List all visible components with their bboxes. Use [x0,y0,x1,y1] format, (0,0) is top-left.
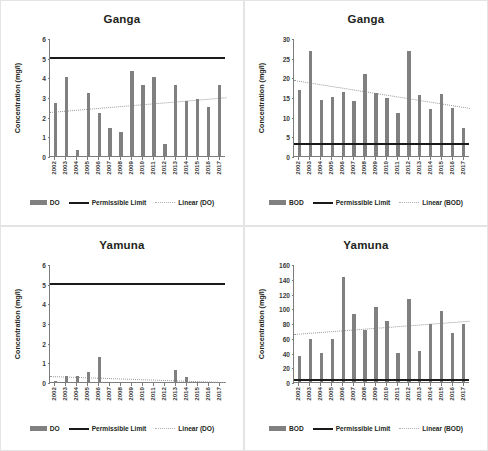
bar-cell [425,265,436,382]
bar-2002 [54,381,57,382]
legend-label: BOD [289,199,304,206]
legend-item-bar: DO [30,199,60,206]
x-tick-label: 2007 [106,387,112,401]
bar-cell [338,265,349,382]
x-tick-label: 2009 [128,387,134,401]
bar-2007 [108,128,111,156]
x-tick-mark [309,383,310,386]
x-tick-label: 2005 [328,387,334,401]
legend-ganga_bod: BODPermissible LimitLinear (BOD) [245,199,487,206]
bar-cell [392,39,403,156]
bar-2010 [385,321,388,382]
legend-item-dot: Linear (BOD) [399,425,463,432]
bar-2002 [298,90,301,156]
x-axis-tick-labels-yamuna_bod: 2002200320042005200620072008200920102011… [293,387,469,401]
x-tick-label: 2011 [394,387,400,401]
x-tick-mark [364,157,365,160]
bar-2004 [320,353,323,383]
x-tick-label: 2015 [438,161,444,175]
bar-2003 [65,77,68,156]
x-tick-label: 2010 [383,161,389,175]
x-tick-mark [375,383,376,386]
x-tick-mark [131,383,132,386]
x-tick-mark [353,157,354,160]
x-tick-marks [49,157,225,160]
bar-cell [436,265,447,382]
legend-swatch-dot [399,202,419,203]
bar-series-yamuna_bod [294,265,469,382]
x-tick-mark [186,383,187,386]
x-tick-label: 2003 [62,387,68,401]
x-tick-mark [331,157,332,160]
bar-cell [458,39,469,156]
bar-2004 [320,100,323,156]
legend-item-dot: Linear (BOD) [399,199,463,206]
bar-cell [349,265,360,382]
x-tick-label: 2006 [339,387,345,401]
legend-label: Linear (DO) [178,425,214,432]
x-tick-label: 2008 [117,387,123,401]
bar-cell [294,39,305,156]
x-tick-mark [463,383,464,386]
bar-cell [338,39,349,156]
x-tick-label: 2011 [394,161,400,175]
x-tick-marks [293,383,469,386]
x-tick-label: 2008 [361,161,367,175]
x-tick-label: 2006 [95,387,101,401]
bar-cell [425,39,436,156]
x-tick-label: 2008 [361,387,367,401]
x-tick-mark [142,383,143,386]
legend-swatch-line [313,428,333,430]
x-tick-mark [76,383,77,386]
legend-swatch-dot [155,202,175,203]
x-tick-label: 2005 [84,387,90,401]
legend-label: Permissible Limit [336,199,391,206]
bar-cell [436,39,447,156]
bar-2017 [462,128,465,156]
x-tick-label: 2013 [172,387,178,401]
x-tick-mark [120,383,121,386]
x-tick-marks [293,157,469,160]
x-tick-mark [397,383,398,386]
x-tick-mark [397,157,398,160]
x-tick-mark [320,157,321,160]
bar-2017 [218,85,221,156]
x-tick-label: 2002 [295,161,301,175]
bar-cell [458,265,469,382]
bar-cell [382,39,393,156]
x-tick-mark [87,383,88,386]
x-tick-label: 2003 [62,161,68,175]
bar-2009 [374,93,377,156]
bar-2010 [385,98,388,156]
bar-2015 [440,94,443,156]
x-tick-label: 2014 [183,161,189,175]
x-tick-label: 2011 [150,161,156,175]
x-tick-mark [131,157,132,160]
bar-2015 [440,311,443,382]
bar-cell [392,265,403,382]
x-tick-label: 2012 [405,387,411,401]
bar-cell [371,39,382,156]
panel-title-ganga_bod: Ganga [245,13,487,25]
x-tick-mark [408,157,409,160]
x-tick-mark [142,157,143,160]
x-tick-label: 2010 [139,387,145,401]
bar-cell [349,39,360,156]
legend-swatch-bar [30,200,47,205]
x-tick-marks [49,383,225,386]
legend-yamuna_bod: BODPermissible LimitLinear (BOD) [245,425,487,432]
bar-2003 [65,376,68,382]
bar-2010 [141,85,144,156]
chart-panel-ganga_bod: GangaConcentration (mg/l)051015202530200… [244,0,488,226]
bar-cell [327,265,338,382]
x-tick-label: 2012 [161,161,167,175]
x-tick-label: 2013 [172,161,178,175]
legend-item-line: Permissible Limit [313,199,391,206]
bar-2011 [152,77,155,156]
x-tick-mark [342,383,343,386]
four-panel-chart-figure: GangaConcentration (mg/l)012345620022003… [0,0,488,451]
x-tick-mark [375,157,376,160]
x-tick-label: 2008 [117,161,123,175]
x-tick-label: 2003 [306,387,312,401]
bar-2011 [396,353,399,383]
